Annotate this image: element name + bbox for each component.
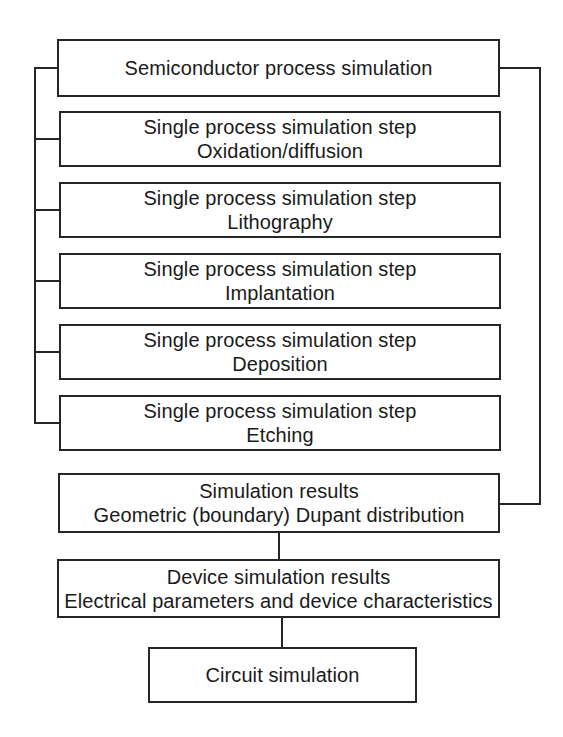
node-step-etching: Single process simulation step Etching xyxy=(59,395,501,451)
node-label: Device simulation results xyxy=(167,565,391,589)
connector-stub-deposition xyxy=(34,351,60,353)
node-label: Simulation results xyxy=(199,479,359,503)
node-label: Semiconductor process simulation xyxy=(125,56,433,80)
node-sublabel: Lithography xyxy=(227,210,333,234)
node-simulation-results: Simulation results Geometric (boundary) … xyxy=(58,473,500,533)
node-step-oxidation-diffusion: Single process simulation step Oxidation… xyxy=(59,111,501,167)
node-sublabel: Oxidation/diffusion xyxy=(197,139,363,163)
node-sublabel: Implantation xyxy=(225,281,335,305)
node-semiconductor-process-simulation: Semiconductor process simulation xyxy=(57,39,500,97)
connector-stub-results-right xyxy=(499,503,541,505)
node-label: Single process simulation step xyxy=(143,257,416,281)
node-device-simulation-results: Device simulation results Electrical par… xyxy=(57,559,500,618)
connector-stub-implantation xyxy=(34,280,60,282)
connector-right-bus xyxy=(539,67,541,505)
node-sublabel: Geometric (boundary) Dupant distribution xyxy=(94,503,465,527)
node-step-deposition: Single process simulation step Depositio… xyxy=(59,324,501,380)
node-label: Single process simulation step xyxy=(143,115,416,139)
node-step-lithography: Single process simulation step Lithograp… xyxy=(59,182,501,238)
node-sublabel: Etching xyxy=(246,423,313,447)
connector-stub-top-box xyxy=(34,67,58,69)
node-step-implantation: Single process simulation step Implantat… xyxy=(59,253,501,309)
connector-stub-lithography xyxy=(34,209,60,211)
node-label: Circuit simulation xyxy=(205,663,359,687)
flowchart-canvas: Semiconductor process simulation Single … xyxy=(0,0,563,737)
connector-left-bus xyxy=(34,67,36,424)
connector-stub-top-right xyxy=(499,67,541,69)
connector-stub-etching xyxy=(34,422,60,424)
connector-results-to-device xyxy=(278,531,280,560)
node-sublabel: Electrical parameters and device charact… xyxy=(64,589,492,613)
node-circuit-simulation: Circuit simulation xyxy=(148,647,417,703)
node-label: Single process simulation step xyxy=(143,186,416,210)
connector-stub-oxidation xyxy=(34,138,60,140)
node-label: Single process simulation step xyxy=(143,399,416,423)
connector-device-to-circuit xyxy=(281,616,283,648)
node-label: Single process simulation step xyxy=(143,328,416,352)
node-sublabel: Deposition xyxy=(232,352,328,376)
